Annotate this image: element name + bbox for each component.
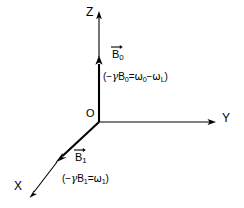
- b0-symbol-sub: 0: [119, 53, 123, 62]
- diagram-canvas: [0, 0, 244, 208]
- b1-formula-b-sub: 1: [84, 177, 88, 186]
- y-axis-label: Y: [222, 112, 230, 124]
- b0-formula-b: B: [118, 71, 125, 82]
- y-axis-line: [99, 119, 216, 125]
- b0-vector-label: B0: [112, 49, 124, 60]
- x-axis-line: [30, 162, 58, 198]
- b0-vector-arrow: [95, 56, 102, 123]
- z-axis-label: Z: [86, 6, 93, 18]
- b1-formula-b: B: [77, 173, 84, 184]
- x-axis-label: X: [14, 180, 22, 192]
- b0-vector-overbar-icon: [111, 44, 123, 49]
- b0-formula-close: ): [165, 71, 168, 82]
- b0-formula-omega2: ω: [152, 71, 160, 82]
- b0-formula-omega1-sub: 0: [143, 75, 147, 84]
- b1-formula-omega1: ω: [93, 173, 101, 184]
- b0-formula: (−γB0=ω0−ωL): [103, 71, 168, 82]
- b0-symbol-group: B0: [112, 49, 124, 60]
- b0-formula-b-sub: 0: [125, 75, 129, 84]
- b1-formula-close: ): [106, 173, 109, 184]
- z-axis-line: [96, 11, 102, 57]
- b1-symbol-group: B1: [75, 152, 87, 163]
- b1-formula: (−γB1=ω1): [62, 173, 109, 184]
- b1-symbol-sub: 1: [82, 156, 86, 165]
- b1-vector-overbar-icon: [74, 147, 86, 152]
- vector-diagram: Z Y X O B0 (−γB0=ω0−ωL) B1 (−γ: [0, 0, 244, 208]
- b0-formula-omega1: ω: [134, 71, 142, 82]
- origin-label: O: [86, 108, 95, 119]
- b0-formula-omega2-sub: L: [161, 75, 165, 84]
- b1-formula-omega1-sub: 1: [102, 177, 106, 186]
- b1-vector-label: B1: [75, 152, 87, 163]
